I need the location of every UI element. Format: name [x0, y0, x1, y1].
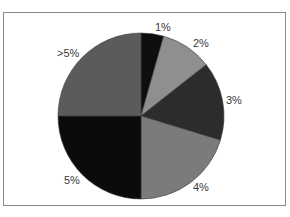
pie-slice-gt5pct — [58, 33, 141, 116]
pie-slice-5pct — [58, 116, 141, 199]
slice-label: >5% — [57, 47, 79, 59]
slice-label: 4% — [193, 181, 209, 193]
slice-label: 5% — [64, 174, 80, 186]
slice-label: 2% — [193, 37, 209, 49]
pie-chart — [0, 0, 290, 217]
slice-label: 1% — [155, 21, 171, 33]
slice-label: 3% — [226, 94, 242, 106]
